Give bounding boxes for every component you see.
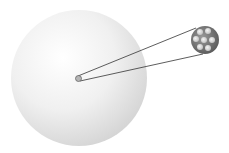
magnified-nucleus — [191, 26, 219, 54]
atom-diagram — [0, 0, 229, 153]
nucleus — [76, 76, 82, 82]
